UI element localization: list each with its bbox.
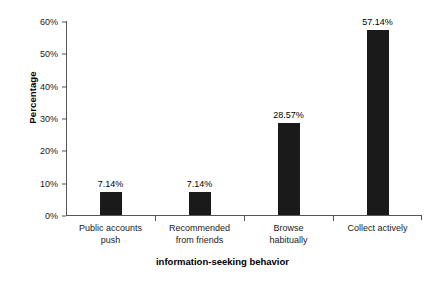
bar	[100, 192, 122, 215]
y-tick-label: 20%	[20, 146, 58, 156]
bar	[367, 30, 389, 215]
y-tick-mark	[62, 183, 66, 184]
bar	[189, 192, 211, 215]
bar-value-label: 57.14%	[362, 17, 393, 27]
y-axis-line	[66, 21, 67, 216]
y-tick-mark	[62, 54, 66, 55]
x-tick-mark	[155, 216, 156, 221]
x-tick-label: Public accountspush	[79, 223, 142, 246]
bar-value-label: 28.57%	[273, 110, 304, 120]
y-tick-label: 30%	[20, 114, 58, 124]
bar	[278, 123, 300, 215]
y-tick-mark	[62, 86, 66, 87]
x-axis-end-tick	[421, 215, 422, 220]
bar-chart-figure: Percentage 0%10%20%30%40%50%60% 7.14%7.1…	[0, 0, 445, 284]
y-tick-mark	[62, 22, 66, 23]
bar-value-label: 7.14%	[187, 179, 213, 189]
y-tick-label: 50%	[20, 49, 58, 59]
x-axis-title: information-seeking behavior	[0, 256, 445, 267]
x-tick-label: Collect actively	[347, 223, 407, 235]
y-tick-label: 10%	[20, 179, 58, 189]
bar-value-label: 7.14%	[98, 179, 124, 189]
y-tick-mark	[62, 151, 66, 152]
x-tick-label: Browsehabitually	[269, 223, 307, 246]
plot-area: 0%10%20%30%40%50%60% 7.14%7.14%28.57%57.…	[66, 22, 422, 216]
y-tick-mark	[62, 216, 66, 217]
y-tick-mark	[62, 119, 66, 120]
y-tick-label: 60%	[20, 17, 58, 27]
x-tick-label: Recommendedfrom friends	[169, 223, 230, 246]
y-tick-label: 40%	[20, 82, 58, 92]
x-tick-mark	[333, 216, 334, 221]
y-tick-label: 0%	[20, 211, 58, 221]
x-tick-mark	[244, 216, 245, 221]
